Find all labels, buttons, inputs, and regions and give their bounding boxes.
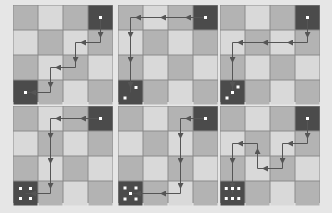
grid-cell — [14, 56, 38, 80]
grid-cell — [144, 107, 168, 131]
dice-pip — [29, 197, 32, 200]
dice-pip — [237, 187, 240, 190]
grid-cell — [246, 6, 270, 30]
dice-pip — [135, 198, 138, 201]
grid-cell — [144, 132, 168, 156]
dice-pip — [225, 197, 228, 200]
grid-cell — [119, 157, 143, 181]
dice-pip — [24, 91, 27, 94]
grid-cell — [89, 132, 113, 156]
grid-cell — [119, 132, 143, 156]
grid-cell — [169, 31, 193, 55]
grid-cell — [296, 56, 320, 80]
dice-pip — [237, 197, 240, 200]
grid-cell — [39, 6, 63, 30]
grid-cell — [119, 107, 143, 131]
grid-cell — [271, 81, 295, 105]
dice-pip — [124, 198, 127, 201]
grid-cell — [14, 31, 38, 55]
dice-pip — [231, 91, 234, 94]
grid-cell — [194, 132, 218, 156]
grid-cell — [144, 31, 168, 55]
grid-cell — [194, 31, 218, 55]
dice-pip — [29, 187, 32, 190]
grid-cell — [246, 56, 270, 80]
grid-panel-1 — [13, 5, 113, 102]
grid-cell — [39, 31, 63, 55]
start-pip — [99, 16, 102, 19]
dice-pip — [135, 86, 138, 89]
start-pip — [306, 117, 309, 120]
start-pip — [306, 16, 309, 19]
grid-cell — [271, 56, 295, 80]
start-pip — [204, 117, 207, 120]
dice-pip — [19, 187, 22, 190]
grid-cell — [194, 157, 218, 181]
grid-panel-3 — [220, 5, 320, 102]
grid-cell — [169, 81, 193, 105]
grid-cell — [246, 182, 270, 206]
grid-cell — [296, 182, 320, 206]
dice-pip — [135, 187, 138, 190]
grid-cell — [64, 6, 88, 30]
grid-cell — [144, 81, 168, 105]
grid-panel-6 — [220, 106, 320, 203]
grid-cell — [221, 107, 245, 131]
grid-cell — [169, 56, 193, 80]
dice-pip — [124, 187, 127, 190]
grid-cell — [14, 157, 38, 181]
grid-panel-5 — [118, 106, 218, 203]
grid-cell — [14, 107, 38, 131]
grid-cell — [194, 81, 218, 105]
grid-cell — [144, 157, 168, 181]
grid-cell — [89, 81, 113, 105]
grid-cell — [14, 132, 38, 156]
grid-cell — [271, 107, 295, 131]
grid-cell — [221, 6, 245, 30]
grid-cell — [271, 6, 295, 30]
start-pip — [99, 117, 102, 120]
grid-cell — [144, 56, 168, 80]
grid-panel-4 — [13, 106, 113, 203]
grid-cell — [296, 81, 320, 105]
grid-cell — [89, 182, 113, 206]
grid-cell — [246, 81, 270, 105]
dice-pip — [124, 97, 127, 100]
dice-pip — [226, 97, 229, 100]
grid-cell — [194, 56, 218, 80]
dice-pip — [225, 187, 228, 190]
dice-pip — [237, 86, 240, 89]
grid-cell — [64, 81, 88, 105]
grid-cell — [89, 56, 113, 80]
grid-cell — [64, 182, 88, 206]
start-pip — [204, 16, 207, 19]
grid-cell — [14, 6, 38, 30]
grid-cell — [194, 182, 218, 206]
grid-cell — [246, 107, 270, 131]
dice-pip — [231, 197, 234, 200]
grid-cell — [89, 157, 113, 181]
grid-panel-2 — [118, 5, 218, 102]
grid-cell — [64, 132, 88, 156]
dice-pip — [129, 192, 132, 195]
grid-cell — [296, 157, 320, 181]
grid-cell — [271, 182, 295, 206]
grid-cell — [64, 157, 88, 181]
dice-pip — [19, 197, 22, 200]
dice-pip — [231, 187, 234, 190]
